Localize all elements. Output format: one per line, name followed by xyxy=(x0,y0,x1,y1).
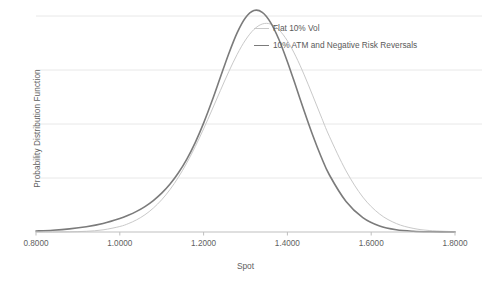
x-axis-tick-label: 0.8000 xyxy=(23,239,48,248)
y-axis-title: Probability Distribution Function xyxy=(33,34,42,224)
x-axis-tick-labels: 0.80001.00001.20001.40001.60001.8000 xyxy=(0,239,482,253)
legend-label: Flat 10% Vol xyxy=(273,24,320,32)
legend-item-flat-vol: Flat 10% Vol xyxy=(254,20,478,37)
plot-figure: Probability Distribution Function 0.8000… xyxy=(0,0,482,281)
x-axis-tick-label: 1.6000 xyxy=(359,239,384,248)
series-line-flat-vol xyxy=(36,23,455,232)
legend-swatch-line-icon xyxy=(254,45,269,46)
legend-swatch-line-icon xyxy=(254,28,269,29)
x-axis-ticks xyxy=(36,232,455,236)
legend-item-risk-reversals: 10% ATM and Negative Risk Reversals xyxy=(254,37,478,54)
x-axis-tick-label: 1.4000 xyxy=(275,239,300,248)
x-axis-tick-label: 1.8000 xyxy=(442,239,467,248)
x-axis-tick-label: 1.0000 xyxy=(107,239,132,248)
chart-legend: Flat 10% Vol 10% ATM and Negative Risk R… xyxy=(254,20,478,54)
chart-figure: Probability Distribution Function 0.8000… xyxy=(0,0,482,281)
x-axis-tick-label: 1.2000 xyxy=(191,239,216,248)
x-axis-title: Spot xyxy=(36,261,455,271)
legend-label: 10% ATM and Negative Risk Reversals xyxy=(273,41,417,49)
